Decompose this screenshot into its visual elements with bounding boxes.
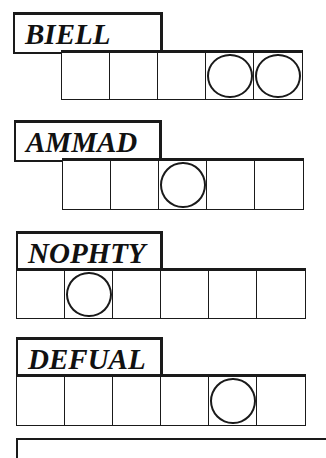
letter-cell[interactable] xyxy=(158,158,208,210)
letter-cell[interactable] xyxy=(208,268,258,319)
letter-cell[interactable] xyxy=(62,158,112,210)
scrambled-word-label: DEFUAL xyxy=(16,337,163,377)
answer-grid xyxy=(61,50,303,100)
letter-cell[interactable] xyxy=(16,374,66,426)
letter-cell[interactable] xyxy=(206,158,256,210)
scrambled-word-label: AMMAD xyxy=(14,120,162,162)
circle-marker-icon xyxy=(207,54,253,98)
letter-cell[interactable] xyxy=(61,50,111,100)
circle-marker-icon xyxy=(66,272,112,317)
letter-cell[interactable] xyxy=(205,50,255,100)
circle-marker-icon xyxy=(160,162,206,208)
letter-cell[interactable] xyxy=(64,268,114,319)
scrambled-word-text: NOPHTY xyxy=(28,235,146,271)
circle-marker-icon xyxy=(255,54,301,98)
circle-marker-icon xyxy=(210,378,256,424)
letter-cell[interactable] xyxy=(109,50,159,100)
answer-grid xyxy=(62,158,304,210)
letter-cell[interactable] xyxy=(256,268,306,319)
scrambled-word-text: DEFUAL xyxy=(28,341,146,377)
letter-cell[interactable] xyxy=(112,268,162,319)
scrambled-word-text: BIELL xyxy=(25,16,110,52)
letter-cell[interactable] xyxy=(112,374,162,426)
letter-cell[interactable] xyxy=(254,158,304,210)
letter-cell[interactable] xyxy=(208,374,258,426)
letter-cell[interactable] xyxy=(16,268,66,319)
letter-cell[interactable] xyxy=(160,268,210,319)
letter-cell[interactable] xyxy=(253,50,303,100)
scrambled-word-label: NOPHTY xyxy=(16,231,163,271)
answer-grid xyxy=(16,374,306,426)
letter-cell[interactable] xyxy=(160,374,210,426)
answer-grid xyxy=(16,268,306,319)
letter-cell[interactable] xyxy=(157,50,207,100)
scrambled-word-label: BIELL xyxy=(13,12,163,54)
answer-box-partial xyxy=(16,438,326,458)
letter-cell[interactable] xyxy=(256,374,306,426)
letter-cell[interactable] xyxy=(64,374,114,426)
scrambled-word-text: AMMAD xyxy=(26,124,137,160)
letter-cell[interactable] xyxy=(110,158,160,210)
